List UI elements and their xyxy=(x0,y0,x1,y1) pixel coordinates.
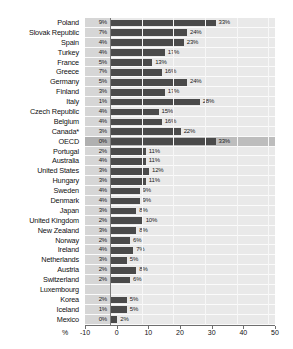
category-label: OECD xyxy=(0,137,82,147)
right-value-label: 6% xyxy=(133,236,141,245)
category-label: New Zealand xyxy=(0,226,82,236)
category-label: Japan xyxy=(0,206,82,216)
bar-row: 2%8% xyxy=(85,265,275,275)
left-value-label: 1% xyxy=(85,97,107,106)
right-value-label: 9% xyxy=(143,196,151,205)
left-value-label: 0% xyxy=(85,315,107,324)
bar-row: 2%10% xyxy=(85,216,275,226)
category-label: Norway xyxy=(0,236,82,246)
right-value-label: 23% xyxy=(187,38,198,47)
left-value-label: 5% xyxy=(85,77,107,86)
category-label: Canada* xyxy=(0,127,82,137)
left-value-label: 4% xyxy=(85,38,107,47)
right-value-label: 13% xyxy=(155,58,166,67)
bar xyxy=(111,158,146,165)
bar-row: 4%9% xyxy=(85,186,275,196)
left-value-label: 0% xyxy=(85,137,107,146)
category-label: Australia xyxy=(0,156,82,166)
left-value-label: 5% xyxy=(85,58,107,67)
bar xyxy=(111,257,127,264)
bar xyxy=(111,217,143,224)
category-label: Sweden xyxy=(0,186,82,196)
axis-tick-label: 10 xyxy=(136,329,160,336)
left-value-label: 1% xyxy=(85,305,107,314)
bar xyxy=(111,59,152,66)
left-value-label: 2% xyxy=(85,275,107,284)
category-label: Denmark xyxy=(0,196,82,206)
gridline xyxy=(142,18,143,325)
bar xyxy=(111,188,140,195)
left-value-label: 3% xyxy=(85,87,107,96)
left-value-label: 4% xyxy=(85,48,107,57)
axis-tick-label: 0 xyxy=(105,329,129,336)
horizontal-bar-chart: PolandSlovak RepublicSpainTurkeyFranceGr… xyxy=(0,0,293,349)
bar-row: 4%15% xyxy=(85,107,275,117)
bar-row: 4%11% xyxy=(85,156,275,166)
right-value-label: 11% xyxy=(149,176,160,185)
axis-tick-label: 50 xyxy=(263,329,287,336)
left-value-label: 9% xyxy=(85,18,107,27)
bar xyxy=(111,49,165,56)
left-value-label: 3% xyxy=(85,206,107,215)
bar-rows: 9%33%7%24%4%23%4%17%5%13%7%16%5%24%3%17%… xyxy=(85,18,275,325)
right-value-label: 24% xyxy=(190,77,201,86)
category-label: Austria xyxy=(0,265,82,275)
axis-tick-label: 20 xyxy=(168,329,192,336)
bar xyxy=(111,79,187,86)
bar xyxy=(111,99,200,106)
right-value-label: 5% xyxy=(130,305,138,314)
bar xyxy=(111,178,146,185)
left-value-label: 7% xyxy=(85,28,107,37)
left-value-label: 3% xyxy=(85,255,107,264)
right-value-label: 5% xyxy=(130,255,138,264)
axis-tick-label: 30 xyxy=(200,329,224,336)
bar-row: 4%23% xyxy=(85,38,275,48)
right-value-label: 8% xyxy=(139,226,147,235)
category-label: Korea xyxy=(0,295,82,305)
category-label: Belgium xyxy=(0,117,82,127)
gridline xyxy=(268,18,269,325)
category-label: Italy xyxy=(0,97,82,107)
category-label: Portugal xyxy=(0,147,82,157)
right-value-label: 33% xyxy=(219,137,230,146)
left-value-label: 4% xyxy=(85,245,107,254)
right-value-label: 15% xyxy=(162,107,173,116)
bar-row: 3%11% xyxy=(85,176,275,186)
left-value-label: 2% xyxy=(85,147,107,156)
right-value-label: 11% xyxy=(149,147,160,156)
bar xyxy=(111,109,159,116)
axis-unit-label: % xyxy=(62,329,68,336)
bar-row: 5%13% xyxy=(85,58,275,68)
right-value-label: 12% xyxy=(152,166,163,175)
left-value-label: 4% xyxy=(85,117,107,126)
x-axis-tick-labels: % -1001020304050 xyxy=(0,329,293,343)
right-value-label: 7% xyxy=(136,245,144,254)
right-value-label: 22% xyxy=(184,127,195,136)
axis-tick-label: -10 xyxy=(73,329,97,336)
left-value-label: 3% xyxy=(85,226,107,235)
bar-row: 4%17% xyxy=(85,48,275,58)
right-value-label: 8% xyxy=(139,206,147,215)
left-value-label: 4% xyxy=(85,107,107,116)
bar-row: 7%16% xyxy=(85,67,275,77)
bar-row xyxy=(85,285,275,295)
bar xyxy=(111,227,136,234)
bar xyxy=(111,168,149,175)
category-label: Czech Republic xyxy=(0,107,82,117)
left-value-label: 2% xyxy=(85,236,107,245)
category-label: Finland xyxy=(0,87,82,97)
gridline xyxy=(205,18,206,325)
bar xyxy=(111,138,216,145)
right-value-label: 6% xyxy=(133,275,141,284)
left-value-label: 2% xyxy=(85,216,107,225)
right-value-label: 11% xyxy=(149,156,160,165)
bar-row: 2%6% xyxy=(85,275,275,285)
right-value-label: 2% xyxy=(120,315,128,324)
category-label: Hungary xyxy=(0,176,82,186)
bar-row: 2%6% xyxy=(85,236,275,246)
zero-axis-line xyxy=(110,18,111,325)
left-value-label: 7% xyxy=(85,67,107,76)
bar-row: 1%5% xyxy=(85,305,275,315)
plot-area: 9%33%7%24%4%23%4%17%5%13%7%16%5%24%3%17%… xyxy=(85,18,275,325)
category-label: Iceland xyxy=(0,305,82,315)
